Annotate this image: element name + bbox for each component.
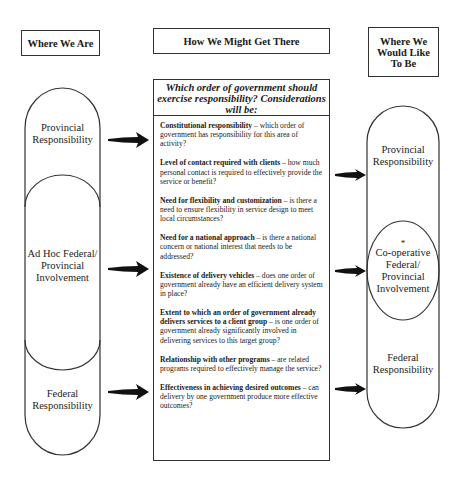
right-arrow-icon: [335, 383, 366, 395]
right-arrow-icon: [108, 132, 149, 148]
right-segment-provincial: Provincial Responsibility: [367, 144, 439, 168]
consideration-title: Need for a national approach: [160, 233, 255, 242]
considerations-box: Which order of government should exercis…: [153, 79, 330, 461]
considerations-list: Constitutional responsibility – which or…: [154, 116, 329, 410]
right-arrow-icon: [108, 384, 149, 400]
consideration-title: Effectiveness in achieving desired outco…: [160, 383, 301, 392]
right-arrow-icon: [108, 261, 149, 277]
question-heading: Which order of government should exercis…: [154, 80, 329, 116]
consideration-item: Need for flexibility and customization –…: [160, 196, 324, 224]
right-segment-cooperative: Co-operative Federal/ Provincial Involve…: [369, 247, 437, 295]
consideration-item: Effectiveness in achieving desired outco…: [160, 383, 324, 411]
left-segment-provincial: Provincial Responsibility: [25, 122, 100, 146]
right-arrow-icon: [335, 265, 366, 277]
right-arrow-icon: [335, 169, 366, 181]
consideration-item: Need for a national approach – is there …: [160, 233, 324, 261]
consideration-item: Constitutional responsibility – which or…: [160, 121, 324, 149]
consideration-title: Existence of delivery vehicles: [160, 271, 254, 280]
left-segment-adhoc: Ad Hoc Federal/ Provincial Involvement: [25, 248, 100, 284]
consideration-title: Need for flexibility and customization: [160, 196, 282, 205]
consideration-item: Level of contact required with clients –…: [160, 158, 324, 186]
consideration-title: Level of contact required with clients: [160, 158, 280, 167]
left-segment-federal: Federal Responsibility: [25, 388, 100, 412]
left-adhoc-top-arc: [25, 175, 100, 207]
left-adhoc-bottom-arc: [25, 340, 100, 370]
consideration-item: Existence of delivery vehicles – does on…: [160, 271, 324, 299]
consideration-title: Constitutional responsibility: [160, 121, 252, 130]
right-segment-federal: Federal Responsibility: [367, 352, 439, 376]
consideration-item: Relationship with other programs – are r…: [160, 355, 324, 373]
consideration-title: Relationship with other programs: [160, 355, 270, 364]
consideration-item: Extent to which an order of government a…: [160, 308, 324, 345]
